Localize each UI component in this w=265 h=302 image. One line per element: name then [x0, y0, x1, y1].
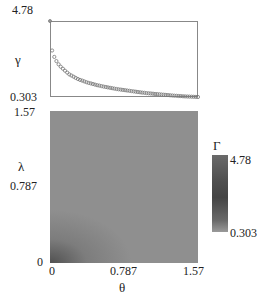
theta-xtick-left: 0 — [49, 265, 55, 277]
theta-xtick-mid: 0.787 — [110, 265, 137, 277]
theta-xtick-right: 1.57 — [183, 265, 204, 277]
lambda-ytick-top: 1.57 — [14, 106, 35, 118]
gamma-ytick-max: 4.78 — [12, 4, 33, 16]
lambda-ylabel: λ — [18, 160, 24, 173]
gamma-heatmap — [50, 111, 198, 263]
gamma-ylabel: γ — [15, 53, 21, 66]
colorbar-label: Γ — [213, 139, 221, 152]
colorbar-min: 0.303 — [230, 227, 257, 239]
theta-xlabel: θ — [119, 281, 125, 294]
lambda-ytick-bot: 0 — [37, 256, 43, 268]
colorbar — [212, 155, 228, 232]
gamma-ytick-min: 0.303 — [10, 91, 37, 103]
colorbar-max: 4.78 — [230, 154, 251, 166]
lambda-ytick-mid: 0.787 — [10, 180, 37, 192]
